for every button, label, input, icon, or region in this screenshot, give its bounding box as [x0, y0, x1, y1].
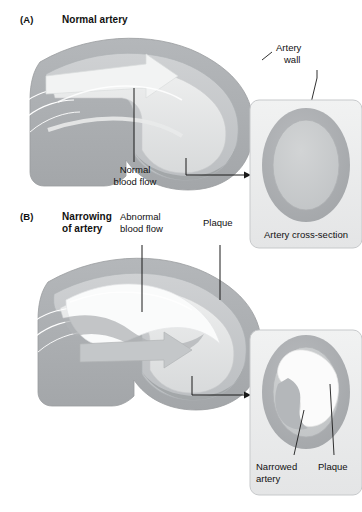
- normal-blood-flow-label-line2: blood flow: [96, 176, 174, 187]
- panel-a-letter: (A): [20, 14, 34, 25]
- narrowed-artery-label-line1: Narrowed: [256, 461, 297, 472]
- panel-b-artery-body: [36, 258, 261, 410]
- leader-artery-wall-to-vessel: [262, 52, 272, 60]
- plaque-label-inset: Plaque: [318, 461, 348, 472]
- normal-blood-flow-label-line1: Normal: [104, 164, 166, 175]
- artery-illustration: [0, 0, 362, 512]
- artery-wall-label-line2: wall: [284, 54, 300, 65]
- abnormal-blood-flow-label-line1: Abnormal: [120, 211, 161, 222]
- inset-box-normal: [250, 100, 362, 248]
- panel-a-title: Normal artery: [62, 14, 128, 26]
- artery-figure: (A) Normal artery Artery wall Normal blo…: [0, 0, 362, 512]
- narrowed-artery-label-line2: artery: [256, 473, 280, 484]
- panel-b-title-line1: Narrowing: [62, 211, 112, 223]
- artery-cross-section-caption: Artery cross-section: [254, 229, 358, 240]
- abnormal-blood-flow-label-line2: blood flow: [120, 223, 163, 234]
- panel-b-letter: (B): [20, 211, 34, 222]
- plaque-label-b: Plaque: [203, 217, 233, 228]
- cross-section-lumen-normal: [273, 120, 339, 210]
- artery-wall-label-line1: Artery: [276, 42, 301, 53]
- panel-b-title-line2: of artery: [62, 223, 102, 235]
